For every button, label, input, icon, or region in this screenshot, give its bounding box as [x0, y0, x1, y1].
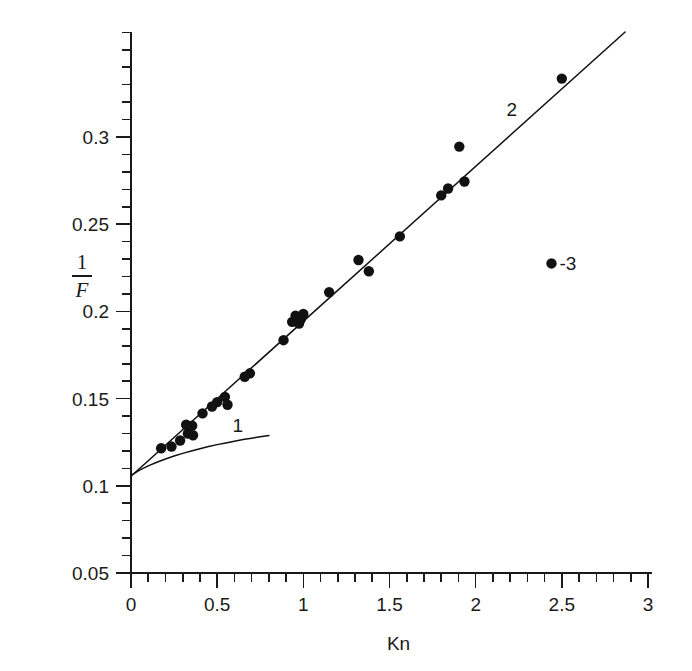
data-point — [443, 183, 453, 193]
y-axis-tick-label: 0.25 — [72, 214, 109, 235]
x-axis-tick-label: 3 — [643, 594, 654, 615]
y-axis-tick-label: 0.05 — [72, 563, 109, 584]
x-axis-tick-label: 2 — [470, 594, 481, 615]
x-axis-title: Kn — [387, 633, 410, 654]
tick-labels-layer: 0.050.10.150.20.250.300.511.522.53Kn — [72, 127, 653, 654]
annotation-label-3: -3 — [559, 253, 576, 274]
fraction-bar — [72, 275, 92, 277]
data-point — [187, 420, 197, 430]
data-point — [175, 435, 185, 445]
data-point — [166, 441, 176, 451]
chart-figure: 1 F 0.050.10.150.20.250.300.511.522.53Kn… — [0, 0, 692, 671]
y-axis-title: 1 F — [62, 252, 102, 301]
data-points-layer — [156, 73, 567, 453]
y-axis-tick-label: 0.15 — [72, 389, 109, 410]
annotation-label-1: 1 — [233, 415, 244, 436]
data-point — [454, 141, 464, 151]
theoretical-curve-1 — [131, 436, 269, 476]
x-axis-tick-label: 1.5 — [376, 594, 402, 615]
data-point — [298, 309, 308, 319]
x-axis-tick-label: 2.5 — [549, 594, 575, 615]
data-point — [188, 430, 198, 440]
y-axis-tick-label: 0.2 — [83, 301, 109, 322]
data-point — [197, 408, 207, 418]
plot-canvas: 0.050.10.150.20.250.300.511.522.53Kn 12-… — [0, 0, 692, 671]
data-point — [459, 176, 469, 186]
y-axis-title-numerator: 1 — [62, 252, 102, 274]
x-axis-tick-label: 0.5 — [204, 594, 230, 615]
legend-marker-dot — [546, 258, 556, 268]
data-point — [222, 400, 232, 410]
curve-layer — [131, 436, 269, 476]
data-point — [395, 231, 405, 241]
annotation-label-2: 2 — [507, 99, 518, 120]
y-axis-tick-label: 0.3 — [83, 127, 109, 148]
data-point — [278, 335, 288, 345]
x-axis-tick-label: 0 — [126, 594, 137, 615]
data-point — [324, 287, 334, 297]
data-point — [156, 443, 166, 453]
annotations-layer: 12-3 — [233, 99, 577, 436]
data-point — [245, 368, 255, 378]
y-axis-title-denominator: F — [62, 278, 102, 301]
data-point — [364, 266, 374, 276]
data-point — [353, 255, 363, 265]
x-axis-tick-label: 1 — [298, 594, 309, 615]
data-point — [557, 73, 567, 83]
y-axis-tick-label: 0.1 — [83, 476, 109, 497]
axes-layer — [116, 32, 652, 588]
